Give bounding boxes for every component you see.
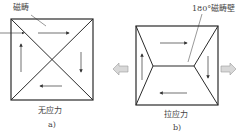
wall-leader-line <box>188 14 202 62</box>
stress-arrow-right <box>221 63 236 75</box>
panel-a-domains <box>0 15 93 100</box>
panel-a-caption: 无应力 <box>38 106 62 115</box>
domain-leader-line <box>31 15 46 26</box>
stress-arrow-left <box>113 63 128 75</box>
domain-diagram <box>0 0 240 138</box>
panel-a-sub-label: a) <box>48 120 56 129</box>
panel-b-domains <box>136 14 218 105</box>
panel-a-top-label: 磁畴 <box>13 3 29 12</box>
panel-b-caption: 拉应力 <box>164 110 188 119</box>
panel-b-sub-label: b) <box>173 123 181 132</box>
panel-b-top-label: 180°磁畴壁 <box>192 4 235 13</box>
